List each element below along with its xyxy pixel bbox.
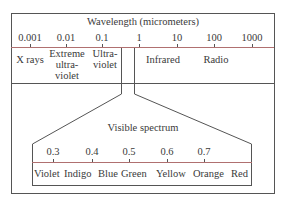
inset-tick-label: 0.7 [197, 146, 210, 157]
outer-frame [12, 14, 275, 194]
band-infrared: Infrared [146, 54, 181, 65]
color-violet: Violet [34, 168, 60, 179]
band-extreme-uv-line3: violet [55, 70, 79, 81]
color-indigo: Indigo [64, 168, 91, 179]
tick-label: 0.01 [57, 32, 75, 43]
inset-tick-label: 0.6 [160, 146, 173, 157]
band-x-rays: X rays [16, 54, 44, 65]
band-labels: X rays Extreme ultra- violet Ultra- viol… [16, 48, 228, 81]
tick-label: 100 [206, 32, 222, 43]
color-blue: Blue [98, 168, 118, 179]
color-orange: Orange [193, 168, 224, 179]
inset-tick-label: 0.4 [85, 146, 99, 157]
color-red: Red [231, 168, 249, 179]
tick-label: 0.1 [95, 32, 108, 43]
inset-tick-marks [54, 159, 205, 162]
inset-tick-label: 0.3 [46, 146, 59, 157]
color-yellow: Yellow [156, 168, 186, 179]
main-tick-labels: 0.001 0.01 0.1 1 10 100 1000 [18, 32, 262, 43]
color-green: Green [121, 168, 147, 179]
band-extreme-uv-line1: Extreme [49, 48, 85, 59]
tick-label: 10 [172, 32, 183, 43]
axis-title: Wavelength (micrometers) [87, 16, 199, 28]
tick-label: 0.001 [18, 32, 42, 43]
band-uv-line1: Ultra- [92, 48, 118, 59]
inset-title: Visible spectrum [108, 122, 179, 133]
band-extreme-uv-line2: ultra- [56, 59, 79, 70]
band-radio: Radio [203, 54, 228, 65]
funnel-right [135, 94, 252, 144]
tick-label: 1 [136, 32, 141, 43]
main-tick-marks [31, 44, 253, 47]
electromagnetic-spectrum-diagram: Wavelength (micrometers) 0.001 0.01 0.1 … [0, 0, 286, 202]
funnel-left [33, 94, 122, 144]
inset-tick-label: 0.5 [122, 146, 135, 157]
color-labels: Violet Indigo Blue Green Yellow Orange R… [34, 168, 249, 179]
inset-tick-labels: 0.3 0.4 0.5 0.6 0.7 [46, 146, 210, 157]
band-uv-line2: violet [93, 59, 117, 70]
tick-label: 1000 [242, 32, 263, 43]
